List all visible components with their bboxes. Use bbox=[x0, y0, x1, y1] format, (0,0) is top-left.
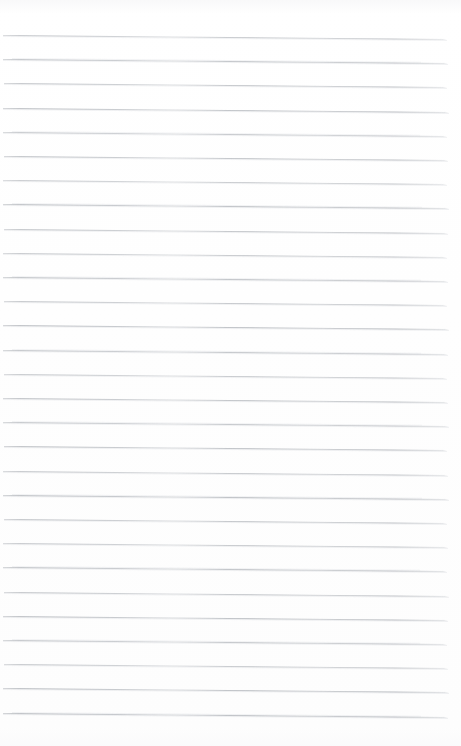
ruled-line bbox=[4, 374, 447, 379]
ruled-line bbox=[3, 567, 447, 572]
ruled-line bbox=[3, 398, 448, 403]
ruled-line bbox=[4, 83, 447, 88]
ruled-line bbox=[4, 301, 447, 306]
ruled-line bbox=[4, 519, 447, 524]
ruled-line bbox=[3, 543, 448, 548]
ruled-line bbox=[3, 713, 448, 718]
ruled-line bbox=[4, 156, 448, 161]
ruled-line bbox=[3, 422, 449, 427]
ruled-line bbox=[3, 180, 447, 185]
ruled-line bbox=[3, 495, 449, 500]
ruled-lines-layer bbox=[0, 0, 461, 746]
ruled-line bbox=[3, 204, 449, 209]
ruled-line bbox=[3, 688, 449, 693]
ruled-line bbox=[3, 59, 448, 64]
ruled-line bbox=[3, 350, 448, 355]
ruled-line bbox=[3, 108, 449, 113]
ruled-line bbox=[3, 616, 448, 621]
ruled-line bbox=[3, 132, 447, 137]
ruled-line bbox=[3, 640, 447, 645]
ruled-line bbox=[4, 446, 447, 451]
ruled-line bbox=[4, 592, 449, 597]
lined-paper-page bbox=[0, 0, 461, 746]
ruled-line bbox=[4, 664, 448, 669]
ruled-line bbox=[3, 35, 447, 40]
ruled-line bbox=[3, 325, 449, 330]
ruled-line bbox=[3, 253, 447, 258]
ruled-line bbox=[4, 229, 448, 234]
ruled-line bbox=[3, 277, 448, 282]
ruled-line bbox=[3, 471, 448, 476]
